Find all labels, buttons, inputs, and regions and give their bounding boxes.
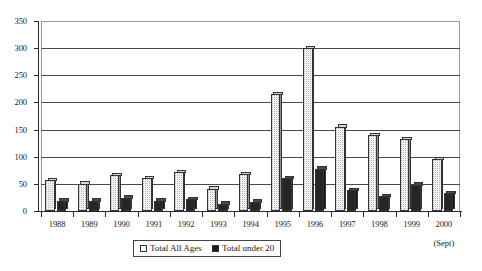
bar-front-face — [315, 169, 325, 211]
x-tick-label: 1990 — [113, 219, 130, 229]
bar-front-face — [57, 201, 67, 211]
bar-1993-series-2 — [218, 204, 228, 211]
bar-1995-series-1 — [271, 94, 281, 211]
y-tick-label: 150 — [15, 125, 27, 134]
x-tick-label: 1993 — [210, 219, 227, 229]
bar-front-face — [400, 139, 410, 211]
bar-2000-series-2 — [444, 193, 454, 211]
bar-group — [400, 21, 424, 211]
bar-front-face — [174, 172, 184, 211]
bar-front-face — [368, 135, 378, 211]
bar-front-face — [121, 198, 131, 211]
bar-1995-series-2 — [282, 178, 292, 211]
bar-1990-series-1 — [110, 175, 120, 211]
legend-swatch-icon — [140, 245, 147, 252]
bar-1991-series-1 — [142, 178, 152, 211]
bar-1998-series-1 — [368, 135, 378, 211]
x-tick-label: 1996 — [307, 219, 324, 229]
legend-label: Total All Ages — [150, 243, 202, 254]
bar-1993-series-1 — [207, 189, 217, 211]
x-tick-mark — [460, 212, 461, 217]
bar-2000-series-1 — [432, 159, 442, 211]
bar-group — [78, 21, 102, 211]
x-tick-mark — [299, 212, 300, 217]
plot-area — [41, 21, 460, 211]
x-tick-label: 1999 — [403, 219, 420, 229]
bar-front-face — [186, 199, 196, 211]
bar-front-face — [218, 204, 228, 211]
x-tick-mark — [138, 212, 139, 217]
bar-1996-series-2 — [315, 169, 325, 211]
bar-1997-series-1 — [335, 127, 345, 211]
bar-1992-series-2 — [186, 199, 196, 211]
x-tick-mark — [396, 212, 397, 217]
bar-front-face — [347, 190, 357, 211]
bar-1999-series-1 — [400, 139, 410, 211]
x-tick-mark — [202, 212, 203, 217]
bar-group — [432, 21, 456, 211]
x-tick-mark — [105, 212, 106, 217]
y-tick-label: 350 — [15, 17, 27, 26]
bar-1998-series-2 — [379, 196, 389, 211]
x-tick-label: 2000 — [436, 219, 453, 229]
x-tick-mark — [41, 212, 42, 217]
y-tick-label: 100 — [15, 152, 27, 161]
bar-group — [335, 21, 359, 211]
bar-front-face — [271, 94, 281, 211]
x-tick-label: 1998 — [371, 219, 388, 229]
bar-group — [303, 21, 327, 211]
y-axis: 050100150200250300350 — [0, 0, 34, 271]
x-tick-mark — [331, 212, 332, 217]
bar-1989-series-2 — [89, 201, 99, 211]
bar-1988-series-1 — [45, 180, 55, 211]
y-tick-label: 200 — [15, 98, 27, 107]
bar-group — [271, 21, 295, 211]
bar-front-face — [239, 174, 249, 211]
bar-group — [110, 21, 134, 211]
legend-label: Total under 20 — [222, 243, 274, 254]
bar-front-face — [335, 127, 345, 211]
y-tick-label: 300 — [15, 44, 27, 53]
plot-frame-right — [459, 21, 460, 211]
bar-1992-series-1 — [174, 172, 184, 211]
x-tick-label: 1989 — [81, 219, 98, 229]
x-tick-mark — [73, 212, 74, 217]
x-tick-label: 1991 — [145, 219, 162, 229]
bar-front-face — [282, 178, 292, 211]
bar-group — [174, 21, 198, 211]
y-tick-label: 0 — [23, 207, 27, 216]
bar-group — [239, 21, 263, 211]
y-tick-label: 250 — [15, 71, 27, 80]
x-tick-mark — [428, 212, 429, 217]
bar-1999-series-2 — [411, 185, 421, 211]
y-tick-label: 50 — [19, 179, 27, 188]
x-tick-label: 1992 — [178, 219, 195, 229]
bar-1996-series-1 — [303, 48, 313, 211]
bar-chart: 050100150200250300350 198819891990199119… — [0, 0, 482, 271]
y-axis-line — [38, 21, 39, 212]
bar-front-face — [207, 189, 217, 211]
x-tick-mark — [170, 212, 171, 217]
x-tick-mark — [363, 212, 364, 217]
bar-1988-series-2 — [57, 201, 67, 211]
x-axis-line — [38, 211, 462, 212]
x-tick-mark — [234, 212, 235, 217]
chart-legend: Total All AgesTotal under 20 — [133, 240, 281, 257]
bar-1990-series-2 — [121, 198, 131, 211]
bar-front-face — [78, 184, 88, 211]
bar-front-face — [444, 193, 454, 211]
bar-group — [45, 21, 69, 211]
legend-entry: Total All Ages — [140, 243, 202, 254]
bar-group — [142, 21, 166, 211]
bar-1994-series-2 — [250, 202, 260, 211]
bar-1989-series-1 — [78, 184, 88, 211]
x-tick-label: 1994 — [242, 219, 259, 229]
bar-front-face — [379, 196, 389, 211]
x-tick-label: 1988 — [49, 219, 66, 229]
bar-front-face — [89, 201, 99, 211]
bar-1994-series-1 — [239, 174, 249, 211]
bar-front-face — [411, 185, 421, 211]
bar-group — [368, 21, 392, 211]
bar-front-face — [432, 159, 442, 211]
x-tick-sublabel: (Sept) — [433, 238, 454, 248]
